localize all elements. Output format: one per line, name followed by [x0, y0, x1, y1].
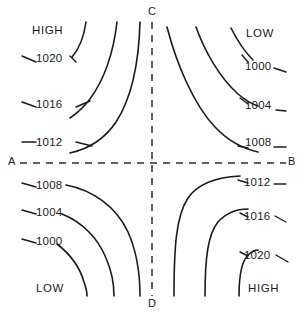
tick-1008-bottom-left — [22, 183, 36, 187]
tick-1004-bottom-left — [22, 210, 36, 214]
pressure-center-high-bottom-right: HIGH — [248, 283, 279, 295]
axis-label-C: C — [148, 6, 156, 17]
tick-1016-bottom-right — [275, 216, 286, 222]
contours-top-right — [167, 27, 258, 152]
axis-label-A: A — [8, 156, 16, 167]
isobar-label-1020-bottom-right: 1020 — [244, 250, 270, 262]
tick-1020-top-left — [22, 56, 36, 62]
isobar-label-1016-top-left: 1016 — [36, 99, 62, 111]
isobar-label-1000-top-right: 1000 — [245, 61, 271, 73]
pressure-center-low-top-right: LOW — [246, 28, 274, 40]
isobar-label-1020-top-left: 1020 — [36, 53, 62, 65]
isobar-label-1012-bottom-right: 1012 — [244, 177, 270, 189]
contours-bottom-left — [57, 185, 140, 296]
tick-1000-bottom-left — [22, 239, 36, 243]
pressure-center-high-top-left: HIGH — [32, 25, 63, 37]
contour-1012-bottom-right — [174, 176, 240, 296]
contours-bottom-right — [174, 176, 258, 296]
isobar-diagram: A B C D HIGH 1020 1016 1012 LOW 1000 100… — [0, 0, 304, 315]
contour-1008-bottom-left — [66, 185, 140, 296]
contours-top-left — [70, 22, 140, 153]
contour-1016-top-left — [70, 22, 117, 118]
tick-1004-top-right — [276, 110, 286, 111]
tick-1016-top-left — [22, 102, 36, 107]
isobar-label-1016-bottom-right: 1016 — [244, 211, 270, 223]
isobar-label-1000-bottom-left: 1000 — [36, 236, 62, 248]
tick-1000-top-right — [274, 68, 286, 72]
isobar-label-1004-top-right: 1004 — [245, 100, 271, 112]
contour-1020-top-left — [72, 22, 86, 57]
contour-canvas — [0, 0, 304, 315]
isobar-label-1008-bottom-left: 1008 — [36, 180, 62, 192]
pressure-center-low-bottom-left: LOW — [36, 283, 64, 295]
tick-1012-lead — [76, 142, 92, 146]
label-ticks-bottom-left — [22, 183, 36, 243]
axis-label-B: B — [288, 156, 296, 167]
isobar-label-1012-top-left: 1012 — [36, 137, 62, 149]
tick-1020-bottom-right — [276, 255, 288, 262]
contour-1008-top-right — [167, 27, 258, 152]
isobar-label-1004-bottom-left: 1004 — [36, 207, 62, 219]
isobar-label-1008-top-right: 1008 — [245, 137, 271, 149]
axis-label-D: D — [148, 298, 156, 309]
